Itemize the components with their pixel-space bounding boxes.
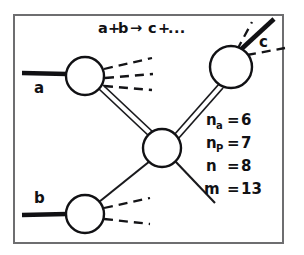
blob-b [66, 195, 104, 233]
incoming-line-b [22, 214, 67, 215]
legend-equals-n: = [227, 157, 240, 175]
label-particle-a: a [34, 79, 44, 97]
blob-center [143, 129, 181, 167]
legend-equals-m: = [227, 180, 240, 198]
legend-value-n: 8 [241, 157, 251, 175]
equation-ellipsis: ... [168, 20, 186, 36]
legend-row-m: m = 13 [204, 180, 262, 198]
legend-subscript-p: P [216, 143, 223, 154]
legend-equals-n-p: = [227, 134, 240, 152]
equation-arrow-icon: → [130, 20, 143, 36]
figure-container: a + b → c + ... a b c n a = 6 n P = 7 [0, 0, 304, 255]
legend-row-n-p: n P = 7 [206, 134, 251, 154]
incoming-line-a [22, 73, 67, 74]
blob-a [66, 57, 104, 95]
equation-left-a: a [98, 20, 108, 36]
equation-right-b: b [118, 20, 129, 36]
legend-row-n: n = 8 [206, 157, 251, 175]
equation-product-c: c [148, 20, 157, 36]
legend-value-n-p: 7 [241, 134, 251, 152]
legend-equals-n-a: = [227, 111, 240, 129]
legend-symbol-m: m [204, 180, 220, 198]
legend-value-n-a: 6 [241, 111, 251, 129]
feynman-like-diagram: a + b → c + ... a b c n a = 6 n P = 7 [0, 0, 304, 255]
legend-value-m: 13 [241, 180, 262, 198]
label-particle-b: b [34, 189, 45, 207]
legend-symbol-n: n [206, 157, 217, 175]
legend-subscript-a: a [216, 120, 223, 131]
label-particle-c: c [259, 33, 268, 51]
blob-c [210, 46, 252, 88]
reaction-equation: a + b → c + ... [98, 20, 186, 36]
legend-row-n-a: n a = 6 [206, 111, 251, 131]
